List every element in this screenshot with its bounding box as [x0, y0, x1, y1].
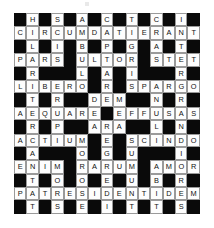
- grid-cell-letter[interactable]: T: [101, 53, 113, 66]
- grid-cell-letter[interactable]: R: [76, 107, 88, 120]
- grid-cell-letter[interactable]: S: [51, 200, 63, 213]
- grid-cell-letter[interactable]: O: [76, 147, 88, 160]
- grid-cell-letter[interactable]: T: [150, 200, 162, 213]
- grid-cell-letter[interactable]: R: [51, 187, 63, 200]
- grid-cell-letter[interactable]: O: [175, 160, 187, 173]
- grid-cell-letter[interactable]: E: [175, 53, 187, 66]
- grid-cell-letter[interactable]: I: [150, 187, 162, 200]
- grid-cell-letter[interactable]: N: [175, 26, 187, 39]
- grid-cell-letter[interactable]: E: [175, 187, 187, 200]
- grid-cell-letter[interactable]: M: [113, 93, 125, 106]
- grid-cell-letter[interactable]: E: [101, 134, 113, 147]
- grid-cell-letter[interactable]: A: [113, 120, 125, 133]
- grid-cell-letter[interactable]: E: [101, 93, 113, 106]
- grid-cell-letter[interactable]: R: [175, 67, 187, 80]
- grid-cell-letter[interactable]: N: [175, 120, 187, 133]
- grid-cell-letter[interactable]: U: [64, 134, 76, 147]
- grid-cell-letter[interactable]: A: [26, 147, 38, 160]
- grid-cell-letter[interactable]: U: [64, 26, 76, 39]
- grid-cell-letter[interactable]: T: [138, 187, 150, 200]
- grid-cell-letter[interactable]: T: [39, 187, 51, 200]
- grid-cell-letter[interactable]: G: [101, 147, 113, 160]
- grid-cell-letter[interactable]: A: [150, 80, 162, 93]
- grid-cell-letter[interactable]: P: [138, 80, 150, 93]
- grid-cell-letter[interactable]: N: [26, 160, 38, 173]
- grid-cell-letter[interactable]: U: [126, 174, 138, 187]
- grid-cell-letter[interactable]: S: [51, 13, 63, 26]
- grid-cell-letter[interactable]: A: [26, 187, 38, 200]
- grid-cell-letter[interactable]: O: [113, 53, 125, 66]
- grid-cell-letter[interactable]: A: [88, 160, 100, 173]
- grid-cell-letter[interactable]: R: [76, 160, 88, 173]
- grid-cell-letter[interactable]: R: [101, 120, 113, 133]
- grid-cell-letter[interactable]: I: [26, 26, 38, 39]
- grid-cell-letter[interactable]: C: [150, 13, 162, 26]
- grid-cell-letter[interactable]: P: [14, 53, 26, 66]
- grid-cell-letter[interactable]: N: [126, 187, 138, 200]
- grid-cell-letter[interactable]: U: [51, 107, 63, 120]
- grid-cell-letter[interactable]: R: [26, 67, 38, 80]
- grid-cell-letter[interactable]: E: [88, 107, 100, 120]
- grid-cell-letter[interactable]: T: [39, 134, 51, 147]
- grid-cell-letter[interactable]: D: [88, 93, 100, 106]
- grid-cell-letter[interactable]: Q: [39, 107, 51, 120]
- grid-cell-letter[interactable]: M: [76, 134, 88, 147]
- grid-cell-letter[interactable]: E: [51, 80, 63, 93]
- grid-cell-letter[interactable]: A: [101, 26, 113, 39]
- grid-cell-letter[interactable]: R: [175, 93, 187, 106]
- grid-cell-letter[interactable]: F: [126, 107, 138, 120]
- grid-cell-letter[interactable]: E: [64, 187, 76, 200]
- grid-cell-letter[interactable]: S: [175, 200, 187, 213]
- grid-cell-letter[interactable]: E: [14, 160, 26, 173]
- grid-cell-letter[interactable]: O: [76, 174, 88, 187]
- grid-cell-letter[interactable]: T: [113, 26, 125, 39]
- grid-cell-letter[interactable]: L: [150, 120, 162, 133]
- grid-cell-letter[interactable]: A: [88, 120, 100, 133]
- grid-cell-letter[interactable]: T: [26, 200, 38, 213]
- grid-cell-letter[interactable]: E: [113, 187, 125, 200]
- grid-cell-letter[interactable]: R: [163, 80, 175, 93]
- grid-cell-letter[interactable]: U: [113, 160, 125, 173]
- grid-cell-letter[interactable]: U: [126, 147, 138, 160]
- grid-cell-letter[interactable]: R: [101, 80, 113, 93]
- grid-cell-letter[interactable]: D: [101, 187, 113, 200]
- grid-cell-letter[interactable]: N: [163, 134, 175, 147]
- grid-cell-letter[interactable]: S: [150, 53, 162, 66]
- grid-cell-letter[interactable]: A: [150, 40, 162, 53]
- grid-cell-letter[interactable]: I: [175, 147, 187, 160]
- grid-cell-letter[interactable]: L: [76, 67, 88, 80]
- grid-cell-letter[interactable]: C: [101, 13, 113, 26]
- grid-cell-letter[interactable]: S: [126, 80, 138, 93]
- grid-cell-letter[interactable]: I: [88, 187, 100, 200]
- grid-cell-letter[interactable]: O: [187, 80, 199, 93]
- grid-cell-letter[interactable]: R: [51, 93, 63, 106]
- grid-cell-letter[interactable]: D: [175, 134, 187, 147]
- grid-cell-letter[interactable]: B: [76, 40, 88, 53]
- grid-cell-letter[interactable]: O: [76, 80, 88, 93]
- grid-cell-letter[interactable]: E: [101, 174, 113, 187]
- grid-cell-letter[interactable]: M: [126, 160, 138, 173]
- grid-cell-letter[interactable]: I: [51, 134, 63, 147]
- grid-cell-letter[interactable]: H: [26, 13, 38, 26]
- grid-cell-letter[interactable]: G: [126, 40, 138, 53]
- grid-cell-letter[interactable]: I: [175, 13, 187, 26]
- grid-cell-letter[interactable]: M: [76, 26, 88, 39]
- grid-cell-letter[interactable]: O: [187, 134, 199, 147]
- grid-cell-letter[interactable]: P: [51, 120, 63, 133]
- grid-cell-letter[interactable]: S: [126, 134, 138, 147]
- grid-cell-letter[interactable]: C: [51, 26, 63, 39]
- grid-cell-letter[interactable]: P: [14, 187, 26, 200]
- grid-cell-letter[interactable]: I: [126, 26, 138, 39]
- grid-cell-letter[interactable]: T: [187, 53, 199, 66]
- grid-cell-letter[interactable]: S: [76, 187, 88, 200]
- grid-cell-letter[interactable]: C: [138, 134, 150, 147]
- grid-cell-letter[interactable]: R: [26, 120, 38, 133]
- grid-cell-letter[interactable]: R: [187, 160, 199, 173]
- grid-cell-letter[interactable]: M: [163, 160, 175, 173]
- grid-cell-letter[interactable]: B: [150, 174, 162, 187]
- grid-cell-letter[interactable]: S: [51, 53, 63, 66]
- grid-cell-letter[interactable]: A: [26, 53, 38, 66]
- grid-cell-letter[interactable]: A: [163, 26, 175, 39]
- grid-cell-letter[interactable]: I: [150, 134, 162, 147]
- grid-cell-letter[interactable]: U: [76, 53, 88, 66]
